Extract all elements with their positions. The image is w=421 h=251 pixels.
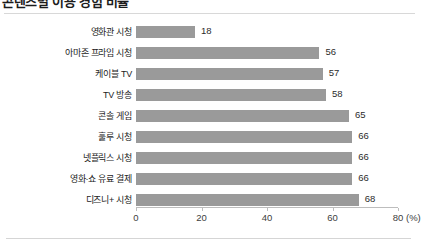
bar-value-label: 56 — [325, 46, 336, 57]
bar — [136, 131, 352, 143]
chart-title-clipped: 콘텐츠별 이용 경험 비율 — [0, 0, 419, 9]
category-label: 디즈니+ 시청 — [86, 193, 132, 206]
bar-value-label: 57 — [329, 67, 340, 78]
bar-value-label: 58 — [332, 88, 343, 99]
bar-value-label: 65 — [355, 109, 366, 120]
category-label: 넷플릭스 시청 — [83, 151, 132, 164]
top-divider — [4, 13, 415, 14]
bar-row: 콘솔 게임65 — [0, 106, 419, 127]
bar-value-label: 66 — [358, 130, 369, 141]
bar-value-label: 66 — [358, 151, 369, 162]
category-label: 케이블 TV — [95, 67, 132, 80]
bar-row: 케이블 TV57 — [0, 64, 419, 85]
bottom-divider — [6, 238, 411, 239]
bar — [136, 26, 195, 38]
x-tick-mark — [333, 208, 334, 211]
bar — [136, 173, 352, 185]
bar-row: 넷플릭스 시청66 — [0, 148, 419, 169]
x-tick-mark — [202, 208, 203, 211]
x-tick-mark — [398, 208, 399, 211]
x-tick-label: 20 — [196, 212, 207, 223]
bar-row: TV 방송58 — [0, 85, 419, 106]
bar-row: 영화·쇼 유료 결제66 — [0, 169, 419, 190]
x-tick-label: 0 — [133, 212, 138, 223]
x-axis-unit-label: (%) — [406, 212, 421, 223]
bar-value-label: 18 — [201, 25, 212, 36]
plot-area: 영화관 시청18아마존 프라임 시청56케이블 TV57TV 방송58콘솔 게임… — [0, 22, 419, 207]
bar-row: 아마존 프라임 시청56 — [0, 43, 419, 64]
bar — [136, 152, 352, 164]
category-label: 영화관 시청 — [91, 25, 132, 38]
bar — [136, 89, 326, 101]
category-label: 아마존 프라임 시청 — [65, 46, 132, 59]
chart-title: 콘텐츠별 이용 경험 비율 — [2, 0, 129, 9]
bar-row: 훌루 시청66 — [0, 127, 419, 148]
bar — [136, 68, 323, 80]
category-label: 영화·쇼 유료 결제 — [70, 172, 132, 185]
x-tick-label: 60 — [327, 212, 338, 223]
bar-value-label: 68 — [365, 193, 376, 204]
x-tick-label: 80 — [393, 212, 404, 223]
x-tick-mark — [136, 208, 137, 211]
bar — [136, 47, 319, 59]
x-tick-label: 40 — [262, 212, 273, 223]
category-label: 콘솔 게임 — [98, 109, 132, 122]
bar — [136, 110, 349, 122]
bar-value-label: 66 — [358, 172, 369, 183]
bar — [136, 194, 359, 206]
category-label: TV 방송 — [103, 88, 132, 101]
category-label: 훌루 시청 — [98, 130, 132, 143]
bar-row: 영화관 시청18 — [0, 22, 419, 43]
x-tick-mark — [267, 208, 268, 211]
